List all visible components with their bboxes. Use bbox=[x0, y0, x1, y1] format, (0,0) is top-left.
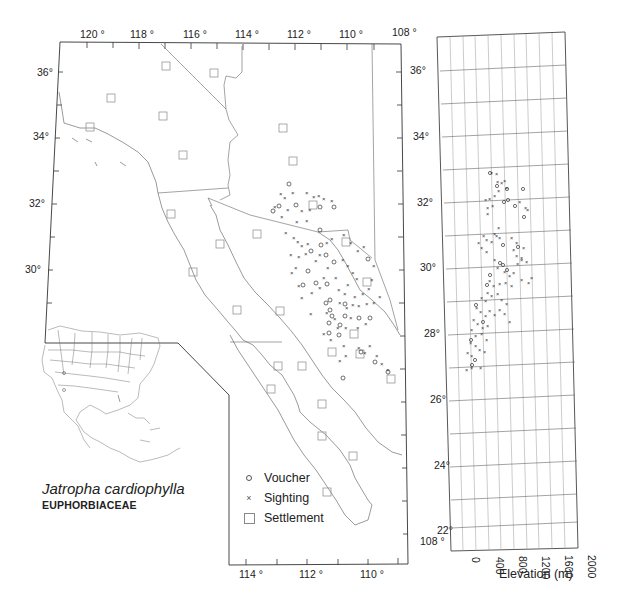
elev-tick-2000: 2000 bbox=[586, 555, 598, 579]
svg-text:×: × bbox=[280, 214, 284, 220]
elevation-axis-title: Elevation (m) bbox=[499, 567, 573, 581]
svg-text:×: × bbox=[341, 257, 345, 263]
svg-text:×: × bbox=[490, 239, 493, 245]
svg-text:×: × bbox=[346, 263, 350, 269]
svg-text:×: × bbox=[355, 276, 359, 282]
legend-label: Voucher bbox=[264, 471, 310, 485]
svg-text:×: × bbox=[333, 316, 337, 322]
svg-text:×: × bbox=[484, 197, 487, 203]
lat-label-right-24: 24° bbox=[434, 459, 450, 471]
svg-text:×: × bbox=[503, 269, 506, 275]
lat-label-right-36: 36° bbox=[410, 64, 426, 76]
svg-text:×: × bbox=[490, 170, 493, 176]
elev-tick-0: 0 bbox=[470, 557, 482, 563]
svg-text:×: × bbox=[488, 308, 491, 314]
svg-text:×: × bbox=[346, 282, 350, 288]
svg-text:×: × bbox=[500, 297, 503, 303]
svg-text:×: × bbox=[520, 277, 523, 283]
svg-text:×: × bbox=[469, 340, 472, 346]
svg-text:×: × bbox=[368, 343, 372, 349]
svg-text:×: × bbox=[351, 302, 355, 308]
svg-text:×: × bbox=[505, 185, 508, 191]
lat-label-left-30: 30° bbox=[25, 263, 41, 275]
svg-text:×: × bbox=[483, 349, 486, 355]
svg-text:×: × bbox=[475, 305, 478, 311]
svg-text:×: × bbox=[496, 179, 499, 185]
svg-text:×: × bbox=[322, 331, 326, 337]
svg-text:×: × bbox=[295, 219, 299, 225]
settlement-square-icon bbox=[240, 513, 258, 524]
svg-text:×: × bbox=[365, 301, 369, 307]
svg-text:×: × bbox=[283, 195, 287, 201]
svg-text:×: × bbox=[330, 198, 334, 204]
svg-text:×: × bbox=[367, 286, 371, 292]
sighting-points: ×××× ×××× ×××× ××× ×××× ×××× ×××× ×××× ×… bbox=[273, 190, 390, 373]
svg-text:×: × bbox=[314, 258, 318, 264]
svg-text:×: × bbox=[291, 190, 295, 196]
svg-text:×: × bbox=[480, 295, 483, 301]
lon-label-bottom-108: 108 ° bbox=[420, 535, 445, 547]
lat-label-left-34: 34° bbox=[33, 130, 49, 142]
svg-text:×: × bbox=[284, 230, 288, 236]
svg-text:×: × bbox=[338, 300, 342, 306]
sighting-x-icon: × bbox=[240, 494, 258, 503]
svg-text:×: × bbox=[474, 343, 477, 349]
svg-text:×: × bbox=[497, 188, 500, 194]
svg-text:×: × bbox=[497, 225, 500, 231]
svg-text:×: × bbox=[504, 280, 507, 286]
lon-label-110: 110 ° bbox=[339, 28, 363, 40]
settlement-markers bbox=[86, 62, 395, 496]
svg-text:×: × bbox=[297, 254, 301, 260]
svg-text:×: × bbox=[372, 300, 376, 306]
svg-text:×: × bbox=[337, 287, 341, 293]
svg-text:×: × bbox=[470, 353, 473, 359]
svg-text:×: × bbox=[306, 241, 310, 247]
svg-text:×: × bbox=[505, 301, 508, 307]
svg-text:×: × bbox=[342, 343, 346, 349]
svg-text:×: × bbox=[308, 207, 312, 213]
svg-text:×: × bbox=[310, 290, 314, 296]
lon-label-114: 114 ° bbox=[235, 28, 259, 40]
svg-text:×: × bbox=[476, 321, 479, 327]
svg-text:×: × bbox=[480, 331, 483, 337]
svg-text:×: × bbox=[326, 265, 330, 271]
lon-label-118: 118 ° bbox=[130, 28, 154, 40]
svg-text:×: × bbox=[361, 291, 365, 297]
svg-text:×: × bbox=[336, 325, 340, 331]
svg-text:×: × bbox=[526, 207, 529, 213]
svg-text:×: × bbox=[498, 235, 501, 241]
svg-text:×: × bbox=[474, 333, 477, 339]
svg-text:×: × bbox=[472, 317, 475, 323]
svg-text:×: × bbox=[380, 361, 384, 367]
elevation-grid-vertical bbox=[450, 33, 565, 551]
svg-text:×: × bbox=[470, 327, 473, 333]
svg-text:×: × bbox=[484, 313, 487, 319]
svg-text:×: × bbox=[479, 309, 482, 315]
svg-text:×: × bbox=[515, 240, 518, 246]
svg-text:×: × bbox=[286, 207, 290, 213]
svg-text:×: × bbox=[470, 365, 473, 371]
svg-text:×: × bbox=[305, 190, 309, 196]
svg-text:×: × bbox=[344, 353, 348, 359]
svg-text:×: × bbox=[488, 196, 491, 202]
svg-text:×: × bbox=[343, 291, 347, 297]
svg-text:×: × bbox=[304, 251, 308, 257]
svg-text:×: × bbox=[378, 294, 382, 300]
svg-text:×: × bbox=[485, 249, 488, 255]
family-name: EUPHORBIACEAE bbox=[42, 499, 137, 511]
lon-label-bottom-114: 114 ° bbox=[239, 568, 263, 580]
svg-text:×: × bbox=[490, 293, 493, 299]
svg-text:×: × bbox=[300, 243, 304, 249]
svg-text:×: × bbox=[273, 204, 277, 210]
svg-text:×: × bbox=[300, 295, 304, 301]
svg-text:×: × bbox=[305, 218, 309, 224]
svg-text:×: × bbox=[322, 196, 326, 202]
svg-text:×: × bbox=[344, 325, 348, 331]
lat-label-right-30: 30° bbox=[420, 261, 436, 273]
svg-text:×: × bbox=[364, 321, 368, 327]
svg-text:×: × bbox=[493, 193, 496, 199]
svg-text:×: × bbox=[386, 367, 390, 373]
legend-label: Sighting bbox=[264, 491, 309, 505]
top-longitude-labels: 120 ° 118 ° 116 ° 114 ° 112 ° 110 ° 108 … bbox=[80, 26, 417, 40]
bottom-longitude-labels: 114 ° 112 ° 110 ° 108 ° bbox=[239, 535, 445, 580]
